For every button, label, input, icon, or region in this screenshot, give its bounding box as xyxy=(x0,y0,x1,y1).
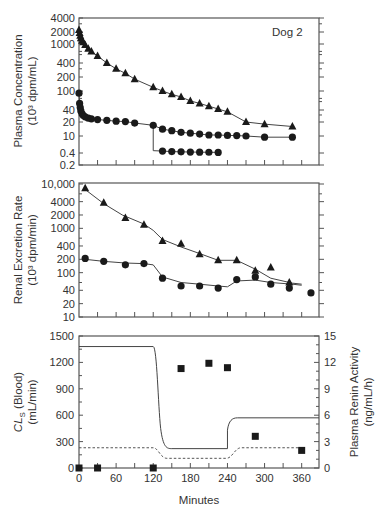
circle-marker xyxy=(177,282,184,289)
triangle-marker xyxy=(267,263,275,271)
top-plot-data xyxy=(75,26,296,156)
circle-marker xyxy=(242,132,249,139)
circle-marker xyxy=(140,260,147,267)
middle-ytick-label: 1000 xyxy=(51,222,75,234)
circle-marker xyxy=(205,149,212,156)
middle-plot-data xyxy=(81,184,314,297)
circle-marker xyxy=(187,130,194,137)
circle-marker xyxy=(168,148,175,155)
circle-marker xyxy=(177,129,184,136)
bottom-right-ytick-label: 9 xyxy=(324,383,330,395)
top-ytick-label: 400 xyxy=(57,57,75,69)
bottom-left-ytick-label: 900 xyxy=(56,383,74,395)
bottom-right-ytick-label: 6 xyxy=(324,409,330,421)
x-tick-label: 180 xyxy=(181,472,199,484)
middle-ytick-label: 20 xyxy=(63,298,75,310)
top-ytick-label: 1000 xyxy=(51,38,75,50)
top-ytick-label: 4000 xyxy=(51,12,75,24)
square-marker xyxy=(178,365,185,372)
bottom-left-yunits-text: (mL/min) xyxy=(26,379,38,425)
curve xyxy=(79,93,292,137)
bottom-right-ytick-label: 12 xyxy=(324,356,336,368)
square-marker xyxy=(252,433,259,440)
middle-ytick-label: 400 xyxy=(57,240,75,252)
circle-marker xyxy=(122,118,129,125)
circle-marker xyxy=(267,281,274,288)
circle-marker xyxy=(196,130,203,137)
bottom-left-ytick-label: 300 xyxy=(56,436,74,448)
top-ytick-label: 0.4 xyxy=(60,147,75,159)
circle-marker xyxy=(177,148,184,155)
bottom-plot-data xyxy=(76,347,320,472)
triangle-marker xyxy=(177,239,185,247)
x-tick-label: 360 xyxy=(293,472,311,484)
circle-marker xyxy=(252,273,259,280)
bottom-left-ytick-label: 0 xyxy=(68,462,74,474)
top-ytick-label: 0.2 xyxy=(60,159,75,171)
circle-marker xyxy=(196,149,203,156)
circle-marker xyxy=(215,284,222,291)
top-ytick-label: 40 xyxy=(63,104,75,116)
middle-ytick-label: 40 xyxy=(63,284,75,296)
top-ytick-label: 10 xyxy=(63,130,75,142)
curve xyxy=(79,30,292,126)
square-marker xyxy=(150,465,157,472)
top-ylabel: Plasma Concentration (10³ dpm/mL) xyxy=(12,34,38,147)
circle-marker xyxy=(261,134,268,141)
middle-axis-ticks: 10,000400020001000400200100402010 xyxy=(41,178,324,323)
bottom-left-ylabel-text: CLS (Blood) xyxy=(12,372,27,432)
bottom-right-ytick-label: 3 xyxy=(324,436,330,448)
bottom-right-ylabel-text: Plasma Renin Activity xyxy=(348,346,360,457)
top-yunits-text: (10³ dpm/mL) xyxy=(26,56,38,125)
circle-marker xyxy=(113,118,120,125)
circle-marker xyxy=(159,126,166,133)
triangle-marker xyxy=(121,69,129,77)
bottom-right-ylabel: Plasma Renin Activity (ng/mL/h) xyxy=(348,346,374,457)
cl-blood-label: (Blood) xyxy=(12,372,24,412)
circle-marker xyxy=(103,117,110,124)
cl-label: CL xyxy=(12,417,24,432)
bottom-axis-ticks: 0300600900120015000369121506012018024030… xyxy=(50,330,337,484)
circle-marker xyxy=(187,148,194,155)
triangle-marker xyxy=(94,52,102,60)
middle-ytick-label: 100 xyxy=(57,267,75,279)
circle-marker xyxy=(88,115,95,122)
top-plot-frame xyxy=(79,18,319,165)
x-tick-label: 120 xyxy=(144,472,162,484)
bottom-right-yunits-text: (ng/mL/h) xyxy=(362,377,374,426)
bottom-left-ylabel: CLS (Blood) (mL/min) xyxy=(12,372,38,432)
circle-marker xyxy=(233,132,240,139)
cls-dashed-curve xyxy=(79,448,303,459)
circle-marker xyxy=(159,275,166,282)
triangle-marker xyxy=(242,118,250,126)
x-tick-label: 0 xyxy=(76,472,82,484)
circle-marker xyxy=(289,134,296,141)
x-tick-label: 240 xyxy=(218,472,236,484)
dog-annotation: Dog 2 xyxy=(272,26,303,38)
cls-solid-curve xyxy=(79,347,319,449)
triangle-marker xyxy=(112,64,120,72)
middle-ytick-label: 200 xyxy=(57,253,75,265)
circle-marker xyxy=(94,116,101,123)
top-ytick-label: 200 xyxy=(57,71,75,83)
top-ylabel-text: Plasma Concentration xyxy=(12,34,24,147)
circle-marker xyxy=(224,132,231,139)
square-marker xyxy=(205,360,212,367)
middle-ytick-label: 2000 xyxy=(51,209,75,221)
x-axis-title: Minutes xyxy=(179,494,220,506)
square-marker xyxy=(224,364,231,371)
bottom-right-ytick-label: 15 xyxy=(324,330,336,342)
circle-marker xyxy=(205,131,212,138)
circle-marker xyxy=(215,149,222,156)
circle-marker xyxy=(131,119,138,126)
circle-marker xyxy=(286,284,293,291)
middle-ylabel: Renal Excretion Rate (10³ dpm/min) xyxy=(12,196,38,305)
square-marker xyxy=(76,465,83,472)
triangle-marker xyxy=(233,256,241,264)
triangle-marker xyxy=(140,220,148,228)
circle-marker xyxy=(75,90,82,97)
triangle-marker xyxy=(81,184,89,192)
triangle-marker xyxy=(196,250,204,257)
triangle-marker xyxy=(131,75,139,83)
circle-marker xyxy=(168,127,175,134)
